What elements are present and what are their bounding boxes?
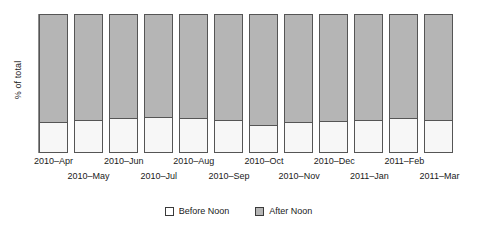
- bar-segment-before-noon: [424, 120, 453, 153]
- x-axis-labels: 2010–Apr2010–Jun2010–Aug2010–Oct2010–Dec…: [38, 154, 453, 188]
- bar-2010-dec[interactable]: [319, 14, 348, 153]
- bar-2011-mar[interactable]: [424, 14, 453, 153]
- white-square-swatch-icon: [165, 207, 174, 216]
- bar-2010-oct[interactable]: [249, 14, 278, 153]
- x-axis-label-row-bottom: 2010–May2010–Jul2010–Sep2010–Nov2011–Jan…: [38, 171, 453, 186]
- x-tick-label: 2010–Sep: [208, 171, 249, 181]
- bar-segment-before-noon: [144, 117, 173, 153]
- bar-2010-apr[interactable]: [39, 14, 68, 153]
- y-axis-label: % of total: [0, 0, 36, 160]
- bar-segment-after-noon: [319, 14, 348, 121]
- bar-segment-after-noon: [284, 14, 313, 122]
- bar-segment-before-noon: [319, 121, 348, 153]
- bar-segment-before-noon: [179, 118, 208, 153]
- bar-2010-aug[interactable]: [179, 14, 208, 153]
- bar-segment-after-noon: [214, 14, 243, 120]
- bar-2010-may[interactable]: [74, 14, 103, 153]
- x-tick-label: 2010–Apr: [34, 156, 73, 166]
- gray-square-swatch-icon: [255, 207, 264, 216]
- bar-group: [39, 14, 453, 153]
- x-axis-label-row-top: 2010–Apr2010–Jun2010–Aug2010–Oct2010–Dec…: [38, 156, 453, 171]
- plot-area: [38, 14, 453, 153]
- bar-segment-after-noon: [354, 14, 383, 120]
- legend-item-before-noon[interactable]: Before Noon: [165, 206, 230, 216]
- bar-segment-after-noon: [389, 14, 418, 118]
- bar-2010-jun[interactable]: [109, 14, 138, 153]
- y-axis-label-text: % of total: [13, 61, 23, 100]
- bar-segment-before-noon: [389, 118, 418, 153]
- bar-segment-after-noon: [109, 14, 138, 118]
- bar-segment-after-noon: [144, 14, 173, 117]
- bar-2011-feb[interactable]: [389, 14, 418, 153]
- bar-2010-sep[interactable]: [214, 14, 243, 153]
- stacked-bar-chart: % of total 2010–Apr2010–Jun2010–Aug2010–…: [0, 0, 477, 236]
- legend: Before Noon After Noon: [0, 206, 477, 216]
- x-tick-label: 2010–May: [68, 171, 110, 181]
- bar-segment-after-noon: [74, 14, 103, 120]
- x-tick-label: 2011–Jan: [350, 171, 389, 181]
- x-tick-label: 2010–Nov: [279, 171, 320, 181]
- x-tick-label: 2011–Mar: [420, 171, 460, 181]
- x-tick-label: 2011–Feb: [384, 156, 424, 166]
- bar-segment-before-noon: [284, 122, 313, 153]
- x-tick-label: 2010–Oct: [245, 156, 284, 166]
- x-tick-label: 2010–Jul: [140, 171, 177, 181]
- bar-segment-before-noon: [354, 120, 383, 153]
- bar-2011-jan[interactable]: [354, 14, 383, 153]
- bar-segment-after-noon: [39, 14, 68, 122]
- bar-segment-before-noon: [249, 125, 278, 153]
- legend-label-before-noon: Before Noon: [179, 206, 230, 216]
- x-tick-label: 2010–Aug: [173, 156, 214, 166]
- bar-segment-after-noon: [179, 14, 208, 118]
- legend-label-after-noon: After Noon: [269, 206, 312, 216]
- bar-2010-nov[interactable]: [284, 14, 313, 153]
- legend-item-after-noon[interactable]: After Noon: [255, 206, 312, 216]
- bar-segment-before-noon: [39, 122, 68, 153]
- bar-segment-after-noon: [424, 14, 453, 120]
- bar-2010-jul[interactable]: [144, 14, 173, 153]
- bar-segment-before-noon: [214, 120, 243, 153]
- bar-segment-before-noon: [74, 120, 103, 153]
- bar-segment-before-noon: [109, 118, 138, 153]
- x-tick-label: 2010–Jun: [104, 156, 144, 166]
- bar-segment-after-noon: [249, 14, 278, 125]
- x-tick-label: 2010–Dec: [314, 156, 355, 166]
